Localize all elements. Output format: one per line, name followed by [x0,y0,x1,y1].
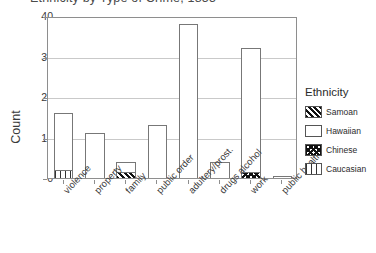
legend-label: Samoan [326,107,358,117]
y-tick-mark [43,179,47,180]
legend-swatch-samoan [305,106,322,118]
chart-legend: Ethnicity SamoanHawaiianChineseCaucasian [305,86,376,180]
bar-chart: Ethnicity by Type of Crime, 1855 Count 0… [0,0,376,253]
bar-segment[interactable] [54,113,74,170]
bar-group[interactable] [54,113,74,178]
legend-label: Caucasian [326,164,366,174]
legend-title: Ethnicity [305,86,376,98]
chart-title: Ethnicity by Type of Crime, 1855 [30,0,216,5]
legend-swatch-caucasian [305,163,322,175]
legend-label: Hawaiian [326,126,361,136]
legend-swatch-chinese [305,144,322,156]
legend-item[interactable]: Chinese [305,142,376,157]
legend-label: Chinese [326,145,357,155]
bar-group[interactable] [148,125,168,178]
legend-swatch-hawaiian [305,125,322,137]
legend-item[interactable]: Samoan [305,104,376,119]
bar-segment[interactable] [148,125,168,178]
legend-item[interactable]: Caucasian [305,161,376,176]
legend-item[interactable]: Hawaiian [305,123,376,138]
